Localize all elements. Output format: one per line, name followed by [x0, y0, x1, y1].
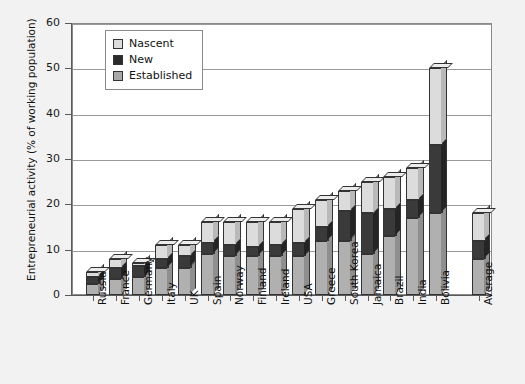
bar-top-face	[338, 186, 362, 191]
y-tick-mark-30	[65, 159, 72, 160]
x-tick-russia	[93, 296, 94, 301]
x-tick-spain	[208, 296, 209, 301]
bar-segment-nascent	[246, 222, 260, 247]
y-tick-mark-40	[65, 114, 72, 115]
established-swatch-icon	[113, 71, 123, 81]
x-tick-usa	[299, 296, 300, 301]
x-tick-india	[413, 296, 414, 301]
nascent-swatch-icon	[113, 39, 123, 49]
x-label-norway: Norway	[234, 265, 245, 305]
bar-segment-nascent	[361, 182, 375, 214]
x-tick-germany	[139, 296, 140, 301]
bar-segment-new	[246, 247, 260, 256]
bar-bolivia	[429, 68, 443, 295]
x-label-spain: Spain	[212, 276, 223, 305]
legend-item-nascent: Nascent	[113, 36, 192, 52]
bar-segment-nascent	[223, 222, 237, 245]
bar-top-face	[178, 240, 202, 245]
bar-segment-new	[406, 200, 420, 218]
x-label-india: India	[417, 279, 428, 305]
y-tick-mark-0	[65, 295, 72, 296]
y-tick-mark-10	[65, 250, 72, 251]
x-label-italy: Italy	[166, 282, 177, 305]
bar-segment-new	[223, 245, 237, 256]
bar-segment-new	[315, 227, 329, 241]
x-label-russia: Russia	[97, 271, 108, 305]
bar-segment-nascent	[109, 259, 123, 268]
bar-top-face	[315, 195, 339, 200]
bar-segment-nascent	[429, 68, 443, 145]
x-tick-uk	[185, 296, 186, 301]
x-label-bolivia: Bolivia	[440, 270, 451, 305]
chart-page: Entrepreneurial activity (% of working p…	[0, 0, 525, 384]
x-tick-jamaica	[368, 296, 369, 301]
bar-segment-new	[178, 256, 192, 267]
bar-segment-new	[338, 211, 352, 240]
legend-item-established: Established	[113, 68, 192, 84]
bar-top-face	[472, 208, 496, 213]
y-tick-label-50: 50	[0, 62, 60, 73]
bar-top-face	[361, 177, 385, 182]
bar-india	[406, 168, 420, 295]
bar-segment-side	[441, 137, 447, 212]
bar-segment-nascent	[201, 222, 215, 242]
x-tick-finland	[253, 296, 254, 301]
legend-label-nascent: Nascent	[129, 38, 174, 50]
bar-segment-nascent	[178, 245, 192, 256]
bar-top-face	[109, 254, 133, 259]
x-label-south-korea: South Korea	[349, 241, 360, 305]
x-label-jamaica: Jamaica	[372, 264, 383, 305]
x-tick-france	[116, 296, 117, 301]
bar-segment-new	[201, 243, 215, 254]
bar-segment-new	[472, 241, 486, 259]
x-label-finland: Finland	[257, 267, 268, 305]
legend-label-established: Established	[129, 70, 192, 82]
x-label-ireland: Ireland	[280, 269, 291, 305]
bar-top-face	[429, 63, 453, 68]
bar-segment-new	[383, 209, 397, 236]
bar-top-face	[383, 172, 407, 177]
y-tick-mark-20	[65, 204, 72, 205]
bar-segment-new	[361, 213, 375, 254]
bar-top-face	[155, 240, 179, 245]
bar-segment-nascent	[292, 209, 306, 243]
x-tick-bolivia	[436, 296, 437, 301]
x-tick-brazil	[390, 296, 391, 301]
bar-segment-new	[429, 145, 443, 213]
bar-segment-new	[155, 259, 169, 268]
bar-segment-nascent	[269, 222, 283, 245]
bar-segment-nascent	[155, 245, 169, 259]
y-tick-label-20: 20	[0, 198, 60, 209]
bar-top-face	[406, 163, 430, 168]
x-label-greece: Greece	[326, 268, 337, 305]
bar-segment-nascent	[383, 177, 397, 209]
x-tick-south-korea	[345, 296, 346, 301]
x-label-average: Average	[483, 262, 494, 305]
x-label-brazil: Brazil	[394, 276, 405, 305]
x-tick-ireland	[276, 296, 277, 301]
x-label-usa: USA	[303, 283, 314, 305]
bar-segment-new	[269, 245, 283, 256]
x-tick-average	[479, 296, 480, 301]
legend-item-new: New	[113, 52, 192, 68]
y-tick-label-40: 40	[0, 108, 60, 119]
x-label-uk: UK	[189, 290, 200, 305]
bar-top-face	[269, 217, 293, 222]
bar-top-face	[201, 217, 225, 222]
y-tick-mark-50	[65, 68, 72, 69]
chart-legend: Nascent New Established	[105, 30, 203, 90]
y-tick-mark-60	[65, 23, 72, 24]
bar-segment-new	[292, 243, 306, 257]
x-tick-norway	[230, 296, 231, 301]
y-tick-label-0: 0	[0, 289, 60, 300]
bar-top-face	[246, 217, 270, 222]
y-tick-label-60: 60	[0, 17, 60, 28]
y-tick-label-30: 30	[0, 153, 60, 164]
legend-label-new: New	[129, 54, 153, 66]
bar-segment-nascent	[315, 200, 329, 227]
bar-segment-nascent	[338, 191, 352, 211]
x-label-france: France	[120, 270, 131, 305]
x-tick-italy	[162, 296, 163, 301]
bar-segment-nascent	[406, 168, 420, 200]
bar-segment-side	[441, 60, 447, 144]
